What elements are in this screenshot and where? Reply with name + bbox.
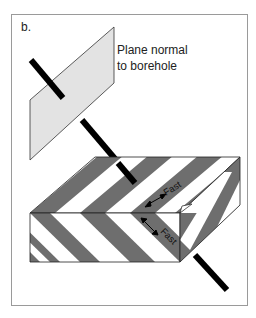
caption-line-1: Plane normal [117,42,188,58]
plane-caption: Plane normal to borehole [117,42,188,74]
panel-label: b. [21,20,31,34]
caption-line-2: to borehole [117,58,188,74]
borehole-lower [195,255,227,290]
